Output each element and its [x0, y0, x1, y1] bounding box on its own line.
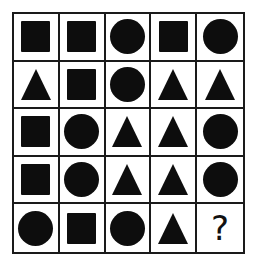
circle-icon [64, 114, 99, 149]
grid-cell-r4-c3 [106, 157, 152, 205]
circle-icon [18, 211, 53, 246]
triangle-icon [21, 69, 51, 100]
grid-cell-r5-c5[interactable]: ? [197, 204, 243, 252]
grid-cell-r2-c3 [106, 62, 152, 110]
grid-cell-r5-c2 [60, 204, 106, 252]
grid-cell-r3-c2 [60, 109, 106, 157]
grid-cell-r1-c1 [14, 14, 60, 62]
grid-cell-r2-c2 [60, 62, 106, 110]
grid-cell-r3-c5 [197, 109, 243, 157]
grid-cell-r1-c5 [197, 14, 243, 62]
triangle-icon [205, 69, 235, 100]
circle-icon [203, 114, 238, 149]
circle-icon [64, 162, 99, 197]
circle-icon [203, 19, 238, 54]
triangle-icon [158, 69, 188, 100]
grid-cell-r1-c4 [151, 14, 197, 62]
grid-cell-r2-c1 [14, 62, 60, 110]
question-mark-icon: ? [211, 211, 229, 245]
grid-cell-r4-c2 [60, 157, 106, 205]
grid-cell-r2-c5 [197, 62, 243, 110]
circle-icon [203, 162, 238, 197]
triangle-icon [158, 213, 188, 244]
grid-cell-r5-c1 [14, 204, 60, 252]
grid-cell-r5-c4 [151, 204, 197, 252]
triangle-icon [158, 164, 188, 195]
square-icon [67, 21, 96, 52]
square-icon [159, 21, 188, 52]
grid-cell-r4-c4 [151, 157, 197, 205]
grid-cell-r1-c3 [106, 14, 152, 62]
grid-cell-r2-c4 [151, 62, 197, 110]
grid-cell-r4-c1 [14, 157, 60, 205]
grid-cell-r1-c2 [60, 14, 106, 62]
triangle-icon [112, 116, 142, 147]
triangle-icon [112, 164, 142, 195]
grid-cell-r3-c3 [106, 109, 152, 157]
square-icon [21, 164, 50, 195]
square-icon [21, 116, 50, 147]
square-icon [67, 213, 96, 244]
grid-cell-r4-c5 [197, 157, 243, 205]
grid-cell-r5-c3 [106, 204, 152, 252]
puzzle-grid: ? [12, 12, 245, 254]
square-icon [21, 21, 50, 52]
square-icon [67, 69, 96, 100]
circle-icon [110, 67, 145, 102]
grid-cell-r3-c4 [151, 109, 197, 157]
circle-icon [110, 19, 145, 54]
circle-icon [110, 211, 145, 246]
grid-cell-r3-c1 [14, 109, 60, 157]
triangle-icon [158, 116, 188, 147]
